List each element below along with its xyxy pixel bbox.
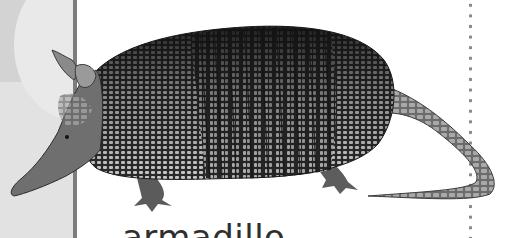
vocabulary-caption: armadillo <box>122 220 285 238</box>
head <box>11 50 102 196</box>
ear <box>52 50 77 80</box>
armadillo-photo <box>0 0 505 238</box>
shell <box>79 26 394 179</box>
